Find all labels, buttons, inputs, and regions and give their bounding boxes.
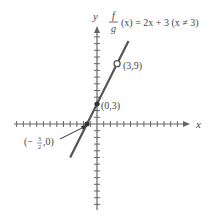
label-3-9: (3,9) bbox=[123, 60, 142, 72]
x-axis-label: x bbox=[195, 118, 201, 130]
function-numerator: f bbox=[112, 10, 116, 21]
function-denominator: g bbox=[111, 23, 116, 34]
label-neg-3-2-0: (− 3 2 ,0) bbox=[24, 136, 54, 150]
y-axis-label: y bbox=[92, 10, 98, 22]
graph-canvas: y x f g (x) = 2x + 3 (x ≠ 3) (3,9) (0,3)… bbox=[0, 0, 221, 221]
svg-text:3: 3 bbox=[38, 136, 41, 142]
svg-text:2: 2 bbox=[38, 144, 41, 150]
label-0-3: (0,3) bbox=[101, 100, 120, 112]
function-equation: (x) = 2x + 3 (x ≠ 3) bbox=[121, 17, 199, 29]
svg-text:,0): ,0) bbox=[43, 136, 54, 148]
axes bbox=[14, 26, 190, 210]
svg-text:(−: (− bbox=[24, 136, 33, 148]
open-point-3-9 bbox=[114, 61, 120, 67]
point-0-3 bbox=[95, 101, 100, 106]
